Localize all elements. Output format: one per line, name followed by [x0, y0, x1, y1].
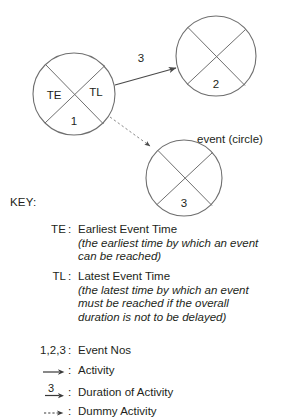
event-node-1[interactable]: TE TL 1: [33, 53, 115, 135]
event-node-2[interactable]: 2: [176, 16, 256, 96]
activity-duration-label: 3: [138, 52, 144, 64]
activity-arrow: [115, 68, 176, 85]
activity-edge-1-2[interactable]: 3: [115, 52, 176, 85]
dummy-activity-arrow: [110, 117, 150, 146]
event-1-tl-label: TL: [89, 86, 103, 98]
key-definition-te: Earliest Event Time (the earliest time b…: [78, 223, 264, 264]
key-definition-tl: Latest Event Time (the latest time by wh…: [78, 270, 264, 324]
event-circle-annotation: event (circle): [197, 133, 263, 145]
event-3-number: 3: [181, 197, 187, 209]
key-colon-dummy: :: [68, 405, 71, 417]
key-colon-duration: :: [68, 386, 71, 398]
event-1-number: 1: [71, 115, 77, 127]
key-definition-te-main: Earliest Event Time: [78, 223, 177, 235]
key-colon-tl: :: [68, 270, 71, 282]
key-definition-event-nos: Event Nos: [78, 344, 264, 358]
key-colon-event-nos: :: [68, 344, 71, 356]
event-2-divider-b: [187, 30, 246, 85]
key-term-tl: TL: [0, 270, 66, 282]
key-colon-activity: :: [68, 364, 71, 376]
key-definition-duration: Duration of Activity: [78, 386, 264, 400]
key-definition-te-gloss: (the earliest time by which an event can…: [78, 237, 264, 264]
key-definition-tl-gloss: (the latest time by which an event must …: [78, 284, 264, 325]
event-2-number: 2: [213, 78, 219, 90]
key-term-te: TE: [0, 223, 66, 235]
svg-text:3: 3: [48, 382, 54, 394]
key-definition-activity: Activity: [78, 364, 264, 378]
key-heading: KEY:: [10, 196, 36, 208]
key-term-event-nos: 1,2,3: [0, 344, 66, 356]
dashed-arrow-icon: [0, 405, 66, 419]
event-1-te-label: TE: [47, 89, 62, 101]
key-definition-dummy: Dummy Activity: [78, 405, 264, 419]
key-definition-tl-main: Latest Event Time: [78, 270, 170, 282]
numbered-arrow-icon: 3: [0, 382, 66, 402]
key-colon-te: :: [68, 223, 71, 235]
dummy-edge-1-3[interactable]: [110, 117, 150, 146]
event-node-3[interactable]: 3: [146, 140, 222, 216]
solid-arrow-icon: [0, 364, 66, 378]
